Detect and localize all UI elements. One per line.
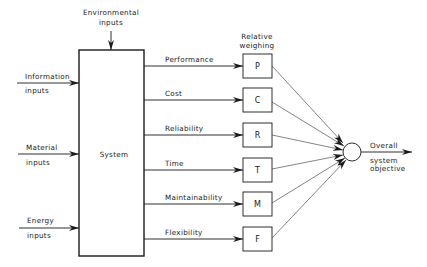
weight-letter: P [255, 62, 260, 71]
attribute-cost: Cost C [144, 88, 344, 146]
environmental-input: Environmental inputs [83, 8, 139, 50]
input-material: Material inputs [18, 143, 79, 167]
weight-letter: R [255, 131, 261, 140]
weighing-header-line2: weighing [240, 41, 275, 50]
attribute-label: Flexibility [165, 228, 203, 237]
system-block: System [79, 50, 144, 256]
input-energy: Energy inputs [19, 216, 79, 240]
environmental-label-line1: Environmental [83, 8, 139, 17]
input-information: Information inputs [17, 72, 79, 95]
weight-arrow-icon [272, 158, 345, 203]
weight-letter: T [254, 166, 260, 175]
weight-letter: F [255, 235, 260, 244]
energy-label-line1: Energy [27, 216, 54, 225]
system-objective-diagram: Environmental inputs System Information … [0, 0, 427, 267]
output-label-line1: Overall [370, 141, 398, 150]
weighing-header-line1: Relative [241, 32, 273, 41]
information-label-line1: Information [25, 72, 70, 81]
overall-objective: Overall system objective [343, 141, 412, 173]
weight-letter: C [255, 96, 261, 105]
system-label: System [100, 150, 129, 159]
attribute-label: Cost [165, 89, 182, 98]
weight-letter: M [254, 200, 261, 209]
weight-arrow-icon [272, 155, 343, 169]
weight-arrow-icon [272, 66, 343, 143]
summing-node-icon [343, 143, 361, 161]
energy-label-line2: inputs [27, 231, 51, 240]
material-label-line1: Material [26, 143, 58, 152]
output-label-line3: objective [370, 164, 406, 173]
environmental-label-line2: inputs [99, 18, 123, 27]
material-label-line2: inputs [26, 158, 50, 167]
weight-arrow-icon [272, 102, 344, 146]
information-label-line2: inputs [25, 86, 49, 95]
attribute-label: Maintainability [165, 193, 223, 202]
weight-arrow-icon [272, 135, 343, 150]
attribute-label: Time [164, 159, 184, 168]
attribute-label: Reliability [165, 124, 204, 133]
weight-arrow-icon [272, 160, 346, 238]
attribute-label: Performance [165, 55, 214, 64]
attribute-flexibility: Flexibility F [144, 160, 346, 251]
